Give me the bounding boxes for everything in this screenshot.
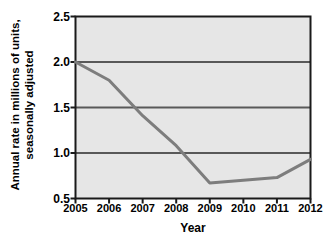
chart-figure: Annual rate in millions of units, season… [0,0,323,249]
x-axis-title: Year [75,221,311,235]
x-tick-label-2012: 2012 [291,201,323,215]
x-axis-tick-labels: 20052006200720082009201020112012 [75,201,311,217]
